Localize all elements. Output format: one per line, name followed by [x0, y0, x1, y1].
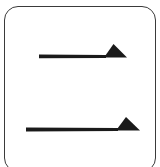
top-arrow-line [39, 44, 127, 58]
bottom-arrow-line [26, 117, 140, 132]
two-arrow-lines-icon [0, 0, 160, 167]
